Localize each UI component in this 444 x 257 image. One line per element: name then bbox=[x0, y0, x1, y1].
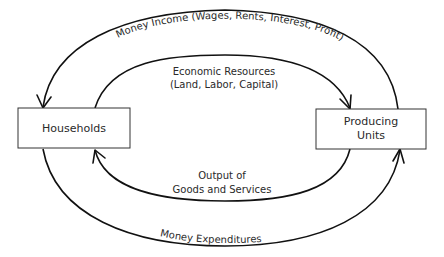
money-expenditures-flow: Money Expenditures bbox=[43, 149, 404, 246]
economic-resources-label-line1: Economic Resources bbox=[173, 66, 276, 77]
households-node: Households bbox=[18, 108, 130, 148]
producing-units-label-line2: Units bbox=[357, 129, 385, 142]
money-income-label: Money Income (Wages, Rents, Interest, Pr… bbox=[114, 10, 346, 43]
money-expenditures-arc bbox=[43, 149, 400, 246]
economic-resources-label-line2: (Land, Labor, Capital) bbox=[170, 79, 278, 90]
economic-resources-flow: Economic Resources (Land, Labor, Capital… bbox=[95, 55, 351, 109]
circular-flow-diagram: Money Income (Wages, Rents, Interest, Pr… bbox=[0, 0, 444, 257]
producing-units-node: Producing Units bbox=[316, 109, 426, 149]
output-label-line2: Goods and Services bbox=[173, 184, 272, 195]
output-flow: Output of Goods and Services bbox=[93, 149, 350, 201]
output-label-line1: Output of bbox=[198, 170, 246, 181]
households-label: Households bbox=[42, 122, 106, 135]
money-income-flow: Money Income (Wages, Rents, Interest, Pr… bbox=[37, 10, 398, 109]
economic-resources-arrowhead-icon bbox=[340, 95, 351, 109]
money-income-arc bbox=[43, 10, 398, 109]
producing-units-label-line1: Producing bbox=[344, 115, 398, 128]
